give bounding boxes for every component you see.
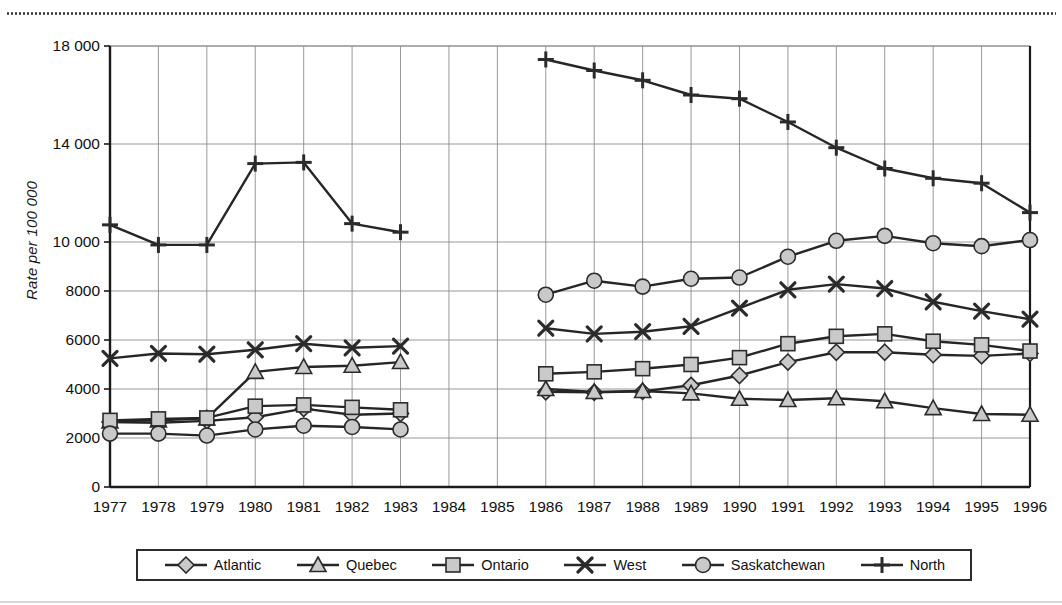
data-point-square bbox=[732, 351, 746, 365]
data-point-diamond bbox=[780, 354, 796, 370]
data-point-square bbox=[151, 412, 165, 426]
data-point-plus bbox=[874, 557, 890, 573]
legend-label: Quebec bbox=[346, 557, 397, 573]
data-point-square bbox=[975, 338, 989, 352]
data-point-plus bbox=[731, 91, 747, 107]
data-point-square bbox=[926, 334, 940, 348]
data-point-circle bbox=[199, 428, 214, 443]
data-point-circle bbox=[684, 271, 699, 286]
legend-label: West bbox=[613, 557, 646, 573]
data-point-plus bbox=[683, 87, 699, 103]
legend-label: Atlantic bbox=[214, 557, 262, 573]
data-point-circle bbox=[877, 228, 892, 243]
data-point-circle bbox=[345, 419, 360, 434]
data-point-circle bbox=[635, 279, 650, 294]
y-tick-label: 8000 bbox=[28, 282, 100, 300]
data-point-plus bbox=[974, 175, 990, 191]
data-point-circle bbox=[732, 270, 747, 285]
y-tick-label: 6000 bbox=[28, 331, 100, 349]
data-point-plus bbox=[828, 140, 844, 156]
legend-item-north[interactable]: North bbox=[859, 556, 945, 574]
data-point-circle bbox=[1023, 233, 1038, 248]
plus-marker-icon bbox=[859, 556, 905, 574]
data-point-square bbox=[684, 358, 698, 372]
y-tick-label: 4000 bbox=[28, 380, 100, 398]
plot-frame bbox=[110, 46, 1030, 487]
bottom-divider bbox=[0, 601, 1062, 603]
chart-legend: AtlanticQuebecOntarioWestSaskatchewanNor… bbox=[136, 549, 972, 581]
data-point-square bbox=[829, 329, 843, 343]
data-point-circle bbox=[103, 426, 118, 441]
y-tick-label: 18 000 bbox=[28, 37, 100, 55]
legend-label: Ontario bbox=[481, 557, 529, 573]
data-point-diamond bbox=[925, 347, 941, 363]
data-point-circle bbox=[393, 422, 408, 437]
data-point-square bbox=[446, 558, 460, 572]
data-point-plus bbox=[586, 63, 602, 79]
legend-item-saskatchewan[interactable]: Saskatchewan bbox=[680, 556, 825, 574]
data-point-plus bbox=[635, 72, 651, 88]
data-point-diamond bbox=[731, 368, 747, 384]
series-north bbox=[102, 51, 1038, 252]
legend-item-atlantic[interactable]: Atlantic bbox=[163, 556, 262, 574]
data-point-circle bbox=[829, 233, 844, 248]
data-point-square bbox=[781, 337, 795, 351]
chart-page: Rate per 100 000 0200040006000800010 000… bbox=[0, 0, 1062, 605]
square-marker-icon bbox=[430, 556, 476, 574]
data-point-square bbox=[587, 365, 601, 379]
series-atlantic bbox=[102, 344, 1038, 431]
data-point-circle bbox=[695, 558, 710, 573]
data-point-circle bbox=[538, 287, 553, 302]
data-point-square bbox=[248, 399, 262, 413]
data-point-circle bbox=[296, 418, 311, 433]
line-chart: Rate per 100 000 0200040006000800010 000… bbox=[0, 0, 1062, 605]
data-point-square bbox=[1023, 344, 1037, 358]
data-point-square bbox=[636, 362, 650, 376]
series-ontario bbox=[103, 327, 1037, 427]
data-point-plus bbox=[247, 156, 263, 172]
legend-item-quebec[interactable]: Quebec bbox=[295, 556, 397, 574]
data-point-circle bbox=[926, 236, 941, 251]
data-point-diamond bbox=[178, 557, 194, 573]
data-point-diamond bbox=[877, 344, 893, 360]
data-point-square bbox=[394, 403, 408, 417]
data-point-circle bbox=[780, 249, 795, 264]
diamond-marker-icon bbox=[163, 556, 209, 574]
data-point-square bbox=[200, 411, 214, 425]
y-tick-label: 14 000 bbox=[28, 135, 100, 153]
data-point-diamond bbox=[828, 344, 844, 360]
x-marker-icon bbox=[562, 556, 608, 574]
data-point-square bbox=[297, 398, 311, 412]
data-point-circle bbox=[151, 426, 166, 441]
data-point-plus bbox=[1022, 205, 1038, 221]
legend-item-ontario[interactable]: Ontario bbox=[430, 556, 529, 574]
data-point-plus bbox=[925, 170, 941, 186]
data-point-square bbox=[539, 367, 553, 381]
triangle-marker-icon bbox=[295, 556, 341, 574]
data-point-plus bbox=[199, 237, 215, 253]
series-quebec bbox=[102, 354, 1038, 428]
data-point-plus bbox=[877, 161, 893, 177]
data-point-square bbox=[103, 413, 117, 427]
legend-label: Saskatchewan bbox=[731, 557, 825, 573]
legend-label: North bbox=[910, 557, 945, 573]
data-point-plus bbox=[150, 237, 166, 253]
y-tick-label: 2000 bbox=[28, 429, 100, 447]
data-point-plus bbox=[538, 51, 554, 67]
data-point-triangle bbox=[393, 354, 409, 369]
x-tick-label: 1996 bbox=[1000, 498, 1060, 516]
y-tick-label: 0 bbox=[28, 478, 100, 496]
legend-item-west[interactable]: West bbox=[562, 556, 646, 574]
y-tick-label: 10 000 bbox=[28, 233, 100, 251]
data-point-plus bbox=[780, 114, 796, 130]
data-point-square bbox=[878, 327, 892, 341]
data-point-plus bbox=[102, 217, 118, 233]
data-point-square bbox=[345, 400, 359, 414]
data-point-plus bbox=[393, 224, 409, 240]
data-point-circle bbox=[587, 273, 602, 288]
grid-lines bbox=[110, 46, 1030, 487]
data-point-circle bbox=[974, 239, 989, 254]
circle-marker-icon bbox=[680, 556, 726, 574]
data-point-circle bbox=[248, 422, 263, 437]
